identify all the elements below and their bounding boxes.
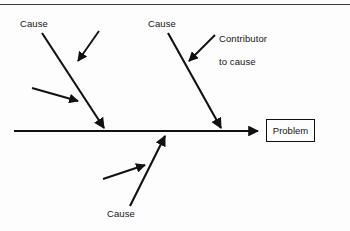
problem-box-label: Problem bbox=[267, 120, 314, 141]
fishbone-canvas bbox=[0, 0, 350, 231]
bone-lower-center bbox=[130, 136, 165, 206]
label-contributor-line2: to cause bbox=[219, 56, 256, 67]
fishbone-diagram: Cause Cause Cause Contributor to cause P… bbox=[0, 0, 350, 231]
contributor-arrow-upper-left-b bbox=[32, 88, 78, 101]
contributor-arrow-lower-center bbox=[103, 165, 145, 179]
label-cause-upper-right: Cause bbox=[148, 18, 176, 30]
label-cause-upper-left: Cause bbox=[20, 18, 48, 30]
contributor-arrow-upper-left-a bbox=[78, 31, 99, 61]
problem-box: Problem bbox=[266, 119, 315, 142]
label-contributor-to-cause: Contributor to cause bbox=[208, 21, 267, 79]
bone-upper-left bbox=[42, 33, 104, 128]
label-cause-lower-center: Cause bbox=[107, 208, 135, 220]
label-contributor-line1: Contributor bbox=[219, 33, 267, 44]
